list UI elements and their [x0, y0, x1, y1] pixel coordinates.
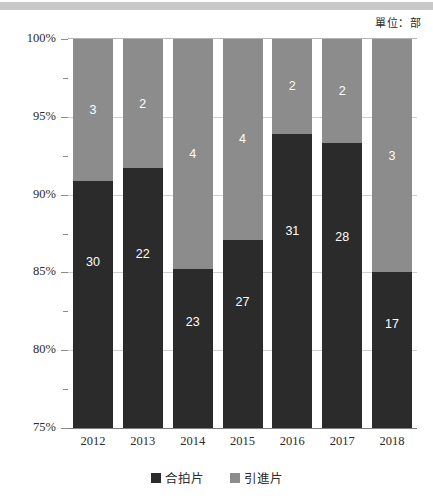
y-axis-minor-tick	[63, 78, 68, 79]
bar-stack[interactable]: 231	[272, 39, 312, 428]
bar-stack[interactable]: 427	[223, 39, 263, 428]
bar-segment-imported[interactable]	[173, 39, 213, 269]
bar-stack[interactable]: 423	[173, 39, 213, 428]
y-axis-minor-tick	[63, 234, 68, 235]
legend-swatch-co_production	[151, 473, 161, 483]
bar-segment-imported[interactable]	[372, 39, 412, 272]
chart-plot-area: 330222423427231228317	[68, 38, 417, 429]
bar-segment-coproduction[interactable]	[272, 134, 312, 428]
x-axis-label: 2013	[120, 434, 166, 449]
y-axis-label: 90%	[0, 186, 56, 201]
y-axis-label: 100%	[0, 31, 56, 46]
bar-segment-imported[interactable]	[223, 39, 263, 240]
y-axis-tick	[61, 39, 68, 40]
y-axis-minor-tick	[63, 389, 68, 390]
chart-plot-wrapper: 330222423427231228317 75%80%85%90%95%100…	[0, 0, 433, 496]
legend-label: 合拍片	[165, 468, 204, 487]
bar-segment-imported[interactable]	[272, 39, 312, 134]
bar-stack[interactable]: 330	[73, 39, 113, 428]
legend-item[interactable]: 引進片	[230, 468, 283, 487]
y-axis-label: 80%	[0, 342, 56, 357]
y-axis-label: 95%	[0, 108, 56, 123]
y-axis-minor-tick	[63, 156, 68, 157]
bar-stack[interactable]: 317	[372, 39, 412, 428]
y-axis-label: 75%	[0, 420, 56, 435]
bar-stack[interactable]: 228	[322, 39, 362, 428]
x-axis-label: 2016	[269, 434, 315, 449]
bar-segment-coproduction[interactable]	[372, 272, 412, 428]
legend-label: 引進片	[244, 468, 283, 487]
x-axis-label: 2015	[220, 434, 266, 449]
bar-segment-coproduction[interactable]	[223, 240, 263, 428]
x-axis-label: 2014	[170, 434, 216, 449]
bar-segment-imported[interactable]	[322, 39, 362, 143]
y-axis-minor-tick	[63, 311, 68, 312]
bar-segment-coproduction[interactable]	[173, 269, 213, 428]
x-axis-label: 2012	[70, 434, 116, 449]
bar-stack[interactable]: 222	[123, 39, 163, 428]
bar-segment-coproduction[interactable]	[322, 143, 362, 428]
legend-swatch-imported	[230, 473, 240, 483]
y-axis-tick	[61, 428, 68, 429]
y-axis-tick	[61, 195, 68, 196]
x-axis-label: 2017	[319, 434, 365, 449]
y-axis-label: 85%	[0, 264, 56, 279]
y-axis-tick	[61, 117, 68, 118]
bar-segment-imported[interactable]	[123, 39, 163, 168]
y-axis-tick	[61, 350, 68, 351]
bar-segment-imported[interactable]	[73, 39, 113, 181]
bar-segment-coproduction[interactable]	[73, 181, 113, 428]
y-axis-tick	[61, 272, 68, 273]
bar-segment-coproduction[interactable]	[123, 168, 163, 428]
x-axis-label: 2018	[369, 434, 415, 449]
chart-legend: 合拍片引進片	[0, 468, 433, 487]
legend-item[interactable]: 合拍片	[151, 468, 204, 487]
